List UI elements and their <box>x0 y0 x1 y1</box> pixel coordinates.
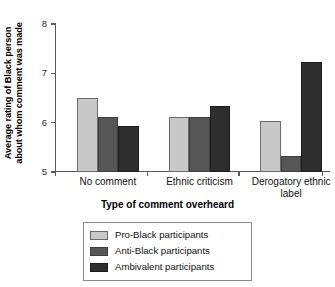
bar <box>189 117 210 172</box>
y-tick-label: 8 <box>33 19 47 29</box>
legend-swatch-pro-black <box>90 231 108 240</box>
x-tick <box>322 171 323 176</box>
x-tick <box>238 171 239 176</box>
y-axis-line <box>55 24 56 172</box>
bar-chart-figure: Average rating of Black person about who… <box>0 0 335 287</box>
legend-item: Pro-Black participants <box>90 227 245 243</box>
bar <box>169 117 190 172</box>
legend-label-anti-black: Anti-Black participants <box>115 246 210 256</box>
y-axis-title-line-2: about whom comment was made <box>14 22 25 164</box>
x-tick <box>147 171 148 176</box>
legend-label-ambivalent: Ambivalent participants <box>115 262 214 272</box>
bar <box>260 121 281 172</box>
y-tick-label: 6 <box>33 118 47 128</box>
legend-item: Ambivalent participants <box>90 259 245 275</box>
bar <box>210 106 231 172</box>
x-tick-label: Ethnic criticism <box>154 176 246 188</box>
y-axis-title: Average rating of Black person about who… <box>2 10 26 176</box>
legend-swatch-anti-black <box>90 247 108 256</box>
y-axis-title-line-1: Average rating of Black person <box>3 22 14 164</box>
legend-swatch-ambivalent <box>90 263 108 272</box>
y-tick-label: 7 <box>33 68 47 78</box>
bar <box>301 62 322 172</box>
y-tick <box>51 23 56 24</box>
x-tick-label: Derogatory ethniclabel <box>245 176 335 199</box>
x-tick <box>55 171 56 176</box>
legend-item: Anti-Black participants <box>90 243 245 259</box>
plot-area: 5678No commentEthnic criticismDerogatory… <box>55 24 330 172</box>
y-tick-label: 5 <box>33 167 47 177</box>
bar <box>118 126 139 172</box>
x-axis-title: Type of comment overheard <box>0 199 335 210</box>
y-tick <box>51 73 56 74</box>
bar <box>98 117 119 172</box>
legend: Pro-Black participants Anti-Black partic… <box>83 222 252 281</box>
bar <box>281 156 302 172</box>
x-tick-label: No comment <box>62 176 154 188</box>
y-tick <box>51 122 56 123</box>
legend-label-pro-black: Pro-Black participants <box>115 230 208 240</box>
bar <box>77 98 98 172</box>
